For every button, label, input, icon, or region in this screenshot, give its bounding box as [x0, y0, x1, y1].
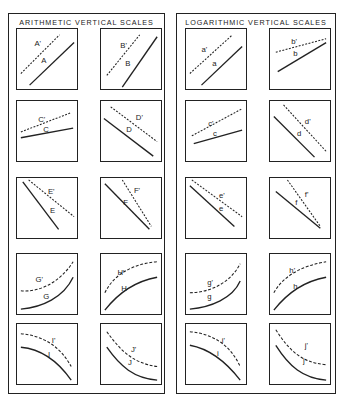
svg-text:c: c — [213, 129, 217, 138]
svg-text:C: C — [43, 125, 49, 134]
svg-text:f': f' — [305, 190, 309, 199]
chart-cell-F: F' F — [100, 177, 162, 239]
chart-cell-f: f' f — [269, 177, 331, 239]
chart-cell-g: g' g — [185, 253, 247, 315]
chart-cell-A: A' A — [16, 28, 78, 90]
svg-text:j: j — [302, 356, 305, 365]
svg-text:g: g — [207, 292, 211, 301]
svg-text:B': B' — [120, 41, 127, 50]
chart-cell-j: j' j — [269, 323, 331, 385]
panel-title: ARITHMETIC VERTICAL SCALES — [9, 18, 164, 27]
svg-text:a': a' — [201, 45, 207, 54]
svg-text:e': e' — [219, 191, 225, 200]
line-pair-icon: A' A — [17, 29, 77, 89]
chart-cell-e: e' e — [185, 177, 247, 239]
chart-cell-I: I' I — [16, 323, 78, 385]
svg-text:G: G — [43, 292, 49, 301]
chart-cell-H: H' H — [100, 253, 162, 315]
svg-text:a: a — [212, 59, 217, 68]
svg-text:D: D — [126, 125, 132, 134]
svg-text:E: E — [50, 206, 55, 215]
svg-text:d: d — [297, 129, 301, 138]
logarithmic-panel: LOGARITHMIC VERTICAL SCALES a' a b' b c'… — [176, 13, 336, 394]
arithmetic-panel: ARITHMETIC VERTICAL SCALES A' A B' B C' … — [8, 13, 165, 394]
svg-text:D': D' — [136, 113, 144, 122]
svg-text:d': d' — [305, 117, 311, 126]
svg-text:F: F — [123, 198, 128, 207]
svg-text:j': j' — [304, 341, 309, 350]
chart-cell-E: E' E — [16, 177, 78, 239]
chart-cell-h: h' h — [269, 253, 331, 315]
svg-text:B: B — [125, 59, 130, 68]
svg-text:G': G' — [35, 275, 43, 284]
svg-text:i: i — [217, 349, 219, 358]
svg-text:I': I' — [52, 336, 56, 345]
chart-cell-b: b' b — [269, 28, 331, 90]
svg-text:h': h' — [289, 266, 295, 275]
chart-cell-G: G' G — [16, 253, 78, 315]
svg-text:g': g' — [207, 278, 213, 287]
svg-text:C': C' — [38, 115, 46, 124]
svg-text:b': b' — [291, 37, 297, 46]
chart-cell-B: B' B — [100, 28, 162, 90]
svg-text:J': J' — [131, 345, 137, 354]
svg-text:f: f — [295, 198, 298, 207]
svg-text:e: e — [219, 204, 223, 213]
svg-text:i': i' — [222, 336, 226, 345]
svg-text:H: H — [121, 284, 127, 293]
svg-text:H': H' — [117, 268, 125, 277]
chart-cell-C: C' C — [16, 100, 78, 162]
chart-cell-i: i' i — [185, 323, 247, 385]
svg-text:E': E' — [48, 187, 55, 196]
svg-text:c': c' — [208, 119, 214, 128]
chart-cell-d: d' d — [269, 100, 331, 162]
svg-text:J: J — [128, 358, 132, 367]
svg-text:I: I — [48, 350, 50, 359]
chart-cell-D: D' D — [100, 100, 162, 162]
svg-text:b: b — [293, 49, 297, 58]
svg-text:A: A — [41, 56, 47, 65]
svg-text:h: h — [293, 282, 297, 291]
chart-cell-c: c' c — [185, 100, 247, 162]
chart-cell-a: a' a — [185, 28, 247, 90]
svg-text:A': A' — [34, 39, 41, 48]
svg-text:F': F' — [134, 186, 141, 195]
panel-title: LOGARITHMIC VERTICAL SCALES — [177, 18, 335, 27]
chart-cell-J: J' J — [100, 323, 162, 385]
